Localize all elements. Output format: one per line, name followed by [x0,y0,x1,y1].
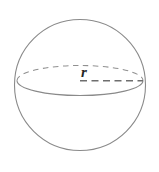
sphere-figure-svg: r [0,0,159,172]
equator-back-arc [17,66,143,81]
radius-label: r [81,64,87,80]
sphere-outline-circle [15,20,146,151]
sphere-diagram: r [0,0,159,172]
equator-front-arc [17,81,143,96]
